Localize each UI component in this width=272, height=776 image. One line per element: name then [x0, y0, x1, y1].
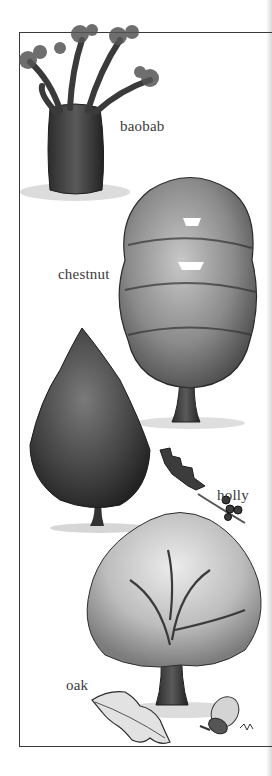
label-baobab: baobab	[120, 118, 165, 135]
artist-signature	[240, 724, 253, 730]
baobab-tree	[19, 24, 159, 201]
label-chestnut: chestnut	[58, 266, 110, 283]
holly-sprig	[160, 448, 245, 523]
label-oak: oak	[66, 677, 88, 694]
holly-tree	[30, 328, 150, 533]
tree-illustration	[0, 0, 272, 776]
oak-tree	[87, 513, 261, 719]
chestnut-tree	[119, 178, 256, 430]
label-holly: holly	[217, 487, 249, 504]
